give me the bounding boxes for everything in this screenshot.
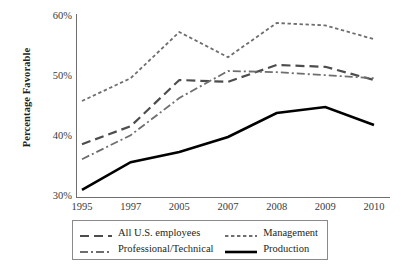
y-tick-label: 60% (36, 10, 72, 21)
legend-swatch-solid-icon (224, 243, 258, 253)
series-line-all-u-s-employees (82, 65, 374, 144)
legend-label: Production (263, 243, 309, 254)
x-tick-label: 1997 (108, 201, 154, 212)
legend-item-management: Management (224, 224, 321, 240)
x-tick-label: 2007 (205, 201, 251, 212)
plot-area (76, 14, 390, 200)
y-tick-label: 50% (36, 70, 72, 81)
legend-swatch-dashed-icon (79, 227, 113, 237)
y-axis-tick-labels: 60%50%40%30% (30, 0, 72, 269)
y-tick-label: 40% (36, 130, 72, 141)
chart-container: Percentage Favorable 60%50%40%30% 199519… (0, 0, 402, 269)
legend-item-professional-technical: Professional/Technical (79, 240, 224, 256)
legend-label: Professional/Technical (118, 243, 213, 254)
legend-label: All U.S. employees (118, 227, 200, 238)
series-line-production (82, 107, 374, 190)
legend-swatch-dotted-icon (224, 227, 258, 237)
series-line-professional-technical (82, 71, 374, 159)
plot-svg (76, 14, 390, 200)
x-tick-label: 2008 (254, 201, 300, 212)
legend-row-1: All U.S. employees Management (79, 224, 321, 240)
x-tick-label: 2005 (156, 201, 202, 212)
legend-item-all-us-employees: All U.S. employees (79, 224, 224, 240)
legend-label: Management (263, 227, 318, 238)
x-tick-label: 1995 (59, 201, 105, 212)
legend-row-2: Professional/Technical Production (79, 240, 321, 256)
series-line-management (82, 23, 374, 101)
legend-swatch-dashdot-icon (79, 243, 113, 253)
y-tick-label: 30% (36, 190, 72, 201)
chart-legend: All U.S. employees Management Profession… (72, 220, 328, 260)
x-tick-label: 2010 (351, 201, 397, 212)
legend-item-production: Production (224, 240, 321, 256)
x-tick-label: 2009 (302, 201, 348, 212)
